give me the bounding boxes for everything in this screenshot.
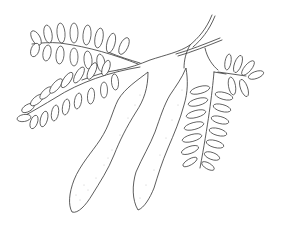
pod-branch-illustration bbox=[0, 0, 285, 232]
leaf-right-small bbox=[218, 54, 265, 98]
leaf-right-vertical bbox=[180, 72, 233, 172]
illustration-canvas bbox=[0, 0, 285, 232]
leaf-upper-left bbox=[29, 23, 138, 73]
